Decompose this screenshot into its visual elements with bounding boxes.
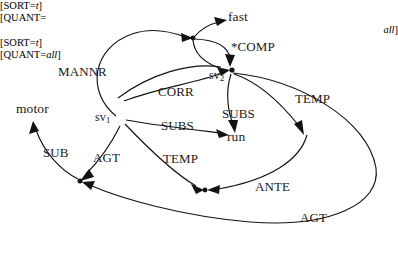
node-sv2: sv2 bbox=[209, 69, 224, 83]
node-sv2-subscript: 2 bbox=[220, 73, 224, 83]
edge-agt-bottom bbox=[92, 73, 376, 223]
arrowhead-temp-mid bbox=[191, 184, 204, 194]
edge-label-corr: CORR bbox=[158, 85, 194, 99]
graph-edges bbox=[0, 0, 398, 256]
edge-label-comp: *COMP bbox=[231, 40, 275, 54]
edge-label-sub: SUB bbox=[43, 146, 69, 160]
edge-label-agt-bottom: AGT bbox=[300, 211, 327, 225]
edge-comp bbox=[195, 39, 230, 58]
edge-to-fast bbox=[194, 22, 219, 37]
arrowhead-sub bbox=[29, 121, 39, 134]
edge-label-mannr: MANNR bbox=[58, 65, 107, 79]
node-motor: motor bbox=[16, 102, 49, 116]
arrowhead-agt-left bbox=[80, 169, 94, 181]
edge-label-subs-lower: SUBS bbox=[161, 119, 194, 133]
node-sv2-base: sv bbox=[209, 68, 220, 82]
arrowhead-agt-bottom bbox=[82, 181, 95, 190]
node-sv1: sv1 bbox=[95, 111, 110, 125]
junction-sv2 bbox=[229, 67, 234, 72]
diagram-canvas: fast motor run sv1 sv2 [SORT=t] [QUANT= … bbox=[0, 0, 398, 256]
arrowhead-comp bbox=[225, 54, 235, 67]
node-run: run bbox=[227, 130, 245, 144]
edge-label-temp-right: TEMP bbox=[295, 92, 330, 106]
edge-label-ante: ANTE bbox=[255, 180, 290, 194]
edge-comp-lower-arc bbox=[193, 40, 219, 68]
node-fast: fast bbox=[228, 10, 248, 24]
edge-label-subs-upper: SUBS bbox=[222, 107, 255, 121]
edge-label-agt-left: AGT bbox=[93, 151, 120, 165]
edge-label-temp-mid: TEMP bbox=[163, 152, 198, 166]
arrowhead-ante bbox=[207, 185, 220, 194]
junction-feat-bottom bbox=[203, 188, 208, 193]
arrowhead-fast bbox=[214, 17, 227, 26]
junction-left bbox=[78, 179, 83, 184]
node-sv1-base: sv bbox=[95, 110, 106, 124]
edge-mannr bbox=[97, 31, 185, 116]
node-sv1-subscript: 1 bbox=[106, 115, 110, 125]
